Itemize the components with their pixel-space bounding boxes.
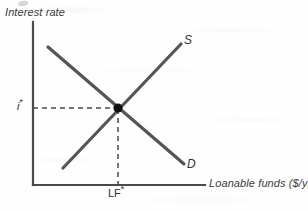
equilibrium-quantity-asterisk: * [121, 184, 125, 194]
equilibrium-rate-tick-label: i* [17, 100, 23, 112]
equilibrium-quantity-letters: LF [108, 187, 121, 199]
supply-curve-label: S [184, 33, 192, 47]
equilibrium-point-marker [113, 103, 122, 112]
y-axis-label: Interest rate [5, 6, 65, 18]
x-axis-label: Loanable funds ($/yr) [209, 177, 308, 189]
loanable-funds-diagram: Interest rate Loanable funds ($/yr) S D … [0, 0, 308, 211]
equilibrium-quantity-tick-label: LF* [108, 187, 124, 199]
demand-curve-label: D [187, 157, 196, 171]
equilibrium-rate-asterisk: * [19, 97, 23, 107]
